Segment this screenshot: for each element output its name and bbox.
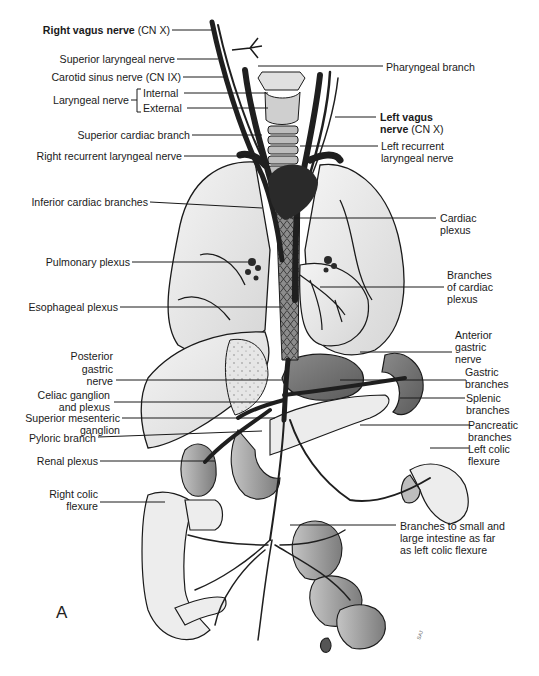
label-branches-of-cardiac-plexus: Branches of cardiac plexus xyxy=(447,269,493,305)
label-gastric-branches: Gastric branches xyxy=(465,366,509,390)
label-left-colic-flexure: Left colic flexure xyxy=(468,443,510,467)
label-laryngeal-external: External xyxy=(143,102,182,114)
laryngeal-bracket xyxy=(131,89,141,112)
panel-letter: A xyxy=(56,603,67,623)
label-line: plexus xyxy=(440,224,477,236)
label-line: plexus xyxy=(447,293,493,305)
label-pulmonary-plexus: Pulmonary plexus xyxy=(20,256,130,268)
label-line: laryngeal nerve xyxy=(381,152,453,164)
label-carotid-sinus-nerve: Carotid sinus nerve (CN IX) xyxy=(20,71,181,83)
label-line: Right colic xyxy=(10,488,98,500)
label-superior-laryngeal-nerve: Superior laryngeal nerve xyxy=(20,53,175,65)
label-line: gastric xyxy=(455,341,492,353)
small-intestine xyxy=(292,521,385,652)
label-line: Cardiac xyxy=(440,212,477,224)
label-inferior-cardiac-branches: Inferior cardiac branches xyxy=(20,196,148,208)
cropped-caption-strip xyxy=(10,664,530,672)
label-line: Pancreatic xyxy=(468,419,518,431)
label-right-recurrent-laryngeal-nerve: Right recurrent laryngeal nerve xyxy=(20,150,182,162)
label-line: Left colic xyxy=(468,443,510,455)
label-splenic-branches: Splenic branches xyxy=(466,392,510,416)
label-line: Branches to small and xyxy=(400,520,505,532)
right-lung xyxy=(168,162,270,353)
label-line: Posterior xyxy=(20,350,113,363)
label-bold: Left vagus xyxy=(380,111,433,123)
label-line: Superior mesenteric xyxy=(10,412,120,424)
label-pancreatic-branches: Pancreatic branches xyxy=(468,419,518,443)
right-kidney xyxy=(181,444,216,496)
pharyngeal-branch-twig xyxy=(232,38,262,58)
label-right-colic-flexure: Right colic flexure xyxy=(10,488,98,512)
label-suffix: (CN X) xyxy=(408,123,443,135)
label-anterior-gastric-nerve: Anterior gastric nerve xyxy=(455,329,492,365)
label-bold: Right vagus nerve xyxy=(43,24,135,36)
label-bold: nerve xyxy=(380,123,408,135)
label-line: flexure xyxy=(468,455,510,467)
label-left-recurrent-laryngeal-nerve: Left recurrent laryngeal nerve xyxy=(381,140,453,164)
svg-text:SAJ: SAJ xyxy=(415,629,424,640)
label-laryngeal-internal: Internal xyxy=(143,87,178,99)
label-left-vagus-nerve: Left vagus nerve (CN X) xyxy=(380,111,444,135)
label-line: branches xyxy=(466,404,510,416)
label-renal-plexus: Renal plexus xyxy=(10,455,98,467)
label-celiac-ganglion-and-plexus: Celiac ganglion and plexus xyxy=(10,389,110,413)
label-cardiac-plexus: Cardiac plexus xyxy=(440,212,477,236)
label-line: gastric xyxy=(20,363,113,376)
label-line: Celiac ganglion xyxy=(10,389,110,401)
label-line: Branches xyxy=(447,269,493,281)
label-line: branches xyxy=(468,431,518,443)
label-line: flexure xyxy=(10,500,98,512)
label-right-vagus-nerve: Right vagus nerve (CN X) xyxy=(20,24,170,36)
label-esophageal-plexus: Esophageal plexus xyxy=(20,301,118,313)
label-superior-cardiac-branch: Superior cardiac branch xyxy=(20,129,190,141)
label-line: as left colic flexure xyxy=(400,544,505,556)
label-line: branches xyxy=(465,378,509,390)
label-line: Gastric xyxy=(465,366,509,378)
label-line: Left recurrent xyxy=(381,140,453,152)
label-pyloric-branch: Pyloric branch xyxy=(10,432,96,444)
label-line: Splenic xyxy=(466,392,510,404)
label-laryngeal-nerve: Laryngeal nerve xyxy=(20,94,129,106)
label-branches-to-intestine: Branches to small and large intestine as… xyxy=(400,520,505,556)
label-pharyngeal-branch: Pharyngeal branch xyxy=(386,61,475,73)
label-line: nerve xyxy=(20,375,113,388)
label-suffix: (CN X) xyxy=(135,24,170,36)
label-posterior-gastric-nerve: Posterior gastric nerve xyxy=(20,350,113,388)
label-line: large intestine as far xyxy=(400,532,505,544)
label-line: Anterior xyxy=(455,329,492,341)
label-line: nerve xyxy=(455,353,492,365)
label-line: of cardiac xyxy=(447,281,493,293)
spleen xyxy=(382,353,423,414)
